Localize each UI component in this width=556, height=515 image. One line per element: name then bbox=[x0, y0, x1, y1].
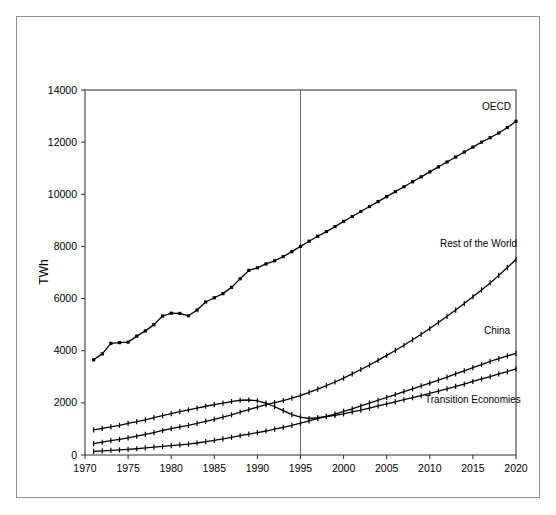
x-axis-ticks: 1970197519801985199019952000200520102015… bbox=[73, 455, 528, 474]
data-point-marker bbox=[282, 255, 285, 258]
data-point-marker bbox=[204, 300, 207, 303]
data-point-marker bbox=[290, 250, 293, 253]
x-tick-label: 1985 bbox=[203, 462, 227, 474]
x-tick-label: 1975 bbox=[116, 462, 140, 474]
y-tick-label: 0 bbox=[71, 449, 77, 461]
data-point-marker bbox=[471, 145, 474, 148]
y-tick-label: 4000 bbox=[54, 344, 78, 356]
series-label-transition-economies: Transition Economies bbox=[425, 394, 521, 405]
y-axis-ticks: 02000400060008000100001200014000 bbox=[48, 84, 85, 461]
data-point-marker bbox=[445, 160, 448, 163]
data-point-marker bbox=[411, 180, 414, 183]
data-point-marker bbox=[428, 170, 431, 173]
data-point-marker bbox=[316, 235, 319, 238]
data-point-marker bbox=[359, 210, 362, 213]
x-tick-label: 1970 bbox=[73, 462, 97, 474]
data-point-marker bbox=[178, 312, 181, 315]
data-point-marker bbox=[127, 341, 130, 344]
x-tick-label: 2005 bbox=[375, 462, 399, 474]
data-point-marker bbox=[342, 220, 345, 223]
y-tick-label: 12000 bbox=[48, 136, 77, 148]
data-point-marker bbox=[514, 120, 517, 123]
series-label-oecd: OECD bbox=[482, 101, 511, 112]
data-point-marker bbox=[333, 225, 336, 228]
series-label-rest-of-the-world: Rest of the World bbox=[440, 238, 517, 249]
data-point-marker bbox=[239, 277, 242, 280]
data-point-marker bbox=[247, 269, 250, 272]
x-tick-label: 1980 bbox=[160, 462, 184, 474]
data-point-marker bbox=[230, 286, 233, 289]
data-point-marker bbox=[264, 262, 267, 265]
x-tick-label: 1995 bbox=[289, 462, 313, 474]
data-point-marker bbox=[109, 342, 112, 345]
y-tick-label: 2000 bbox=[54, 396, 78, 408]
data-point-marker bbox=[101, 352, 104, 355]
data-point-marker bbox=[480, 141, 483, 144]
data-point-marker bbox=[325, 230, 328, 233]
data-point-marker bbox=[152, 323, 155, 326]
data-point-marker bbox=[144, 329, 147, 332]
data-point-marker bbox=[170, 312, 173, 315]
data-point-marker bbox=[256, 266, 259, 269]
data-point-marker bbox=[351, 215, 354, 218]
data-point-marker bbox=[437, 165, 440, 168]
x-tick-label: 2020 bbox=[504, 462, 528, 474]
y-tick-label: 14000 bbox=[48, 84, 77, 96]
data-point-marker bbox=[489, 136, 492, 139]
data-point-marker bbox=[497, 131, 500, 134]
data-point-marker bbox=[308, 240, 311, 243]
data-point-marker bbox=[299, 245, 302, 248]
data-point-marker bbox=[187, 314, 190, 317]
data-point-marker bbox=[402, 185, 405, 188]
data-point-marker bbox=[118, 341, 121, 344]
x-tick-label: 1990 bbox=[246, 462, 270, 474]
data-point-marker bbox=[394, 190, 397, 193]
x-tick-label: 2010 bbox=[418, 462, 442, 474]
y-tick-label: 6000 bbox=[54, 292, 78, 304]
line-chart: 02000400060008000100001200014000 1970197… bbox=[0, 0, 556, 515]
data-point-marker bbox=[92, 358, 95, 361]
data-point-marker bbox=[273, 259, 276, 262]
data-point-marker bbox=[385, 195, 388, 198]
data-point-marker bbox=[195, 308, 198, 311]
y-axis-title: TWh bbox=[37, 259, 51, 284]
data-point-marker bbox=[454, 155, 457, 158]
data-point-marker bbox=[420, 175, 423, 178]
data-point-marker bbox=[213, 296, 216, 299]
chart-page: 02000400060008000100001200014000 1970197… bbox=[0, 0, 556, 515]
series-label-china: China bbox=[484, 325, 511, 336]
data-point-marker bbox=[506, 126, 509, 129]
data-point-marker bbox=[463, 150, 466, 153]
data-point-marker bbox=[135, 335, 138, 338]
data-point-marker bbox=[368, 205, 371, 208]
y-tick-label: 10000 bbox=[48, 188, 77, 200]
data-point-marker bbox=[221, 292, 224, 295]
data-point-marker bbox=[376, 200, 379, 203]
x-tick-label: 2000 bbox=[332, 462, 356, 474]
y-tick-label: 8000 bbox=[54, 240, 78, 252]
data-point-marker bbox=[161, 314, 164, 317]
x-tick-label: 2015 bbox=[461, 462, 485, 474]
